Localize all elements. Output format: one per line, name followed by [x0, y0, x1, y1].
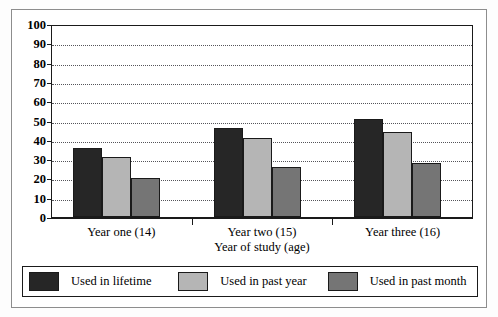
x-separator-tick-2 — [332, 218, 333, 225]
gridline-60 — [52, 103, 472, 104]
bar-used-in-lifetime-year-two-15 — [214, 128, 243, 217]
y-tick-label-70: 70 — [10, 77, 46, 90]
y-tick-label-0: 0 — [10, 212, 46, 225]
bar-used-in-past-year-year-two-15 — [243, 138, 272, 217]
y-tick-label-60: 60 — [10, 96, 46, 109]
bar-used-in-past-month-year-one-14 — [131, 178, 160, 217]
bar-used-in-past-month-year-three-16 — [412, 163, 441, 217]
legend-entry-used-in-lifetime[interactable]: Used in lifetime — [23, 272, 178, 291]
x-group-label-1: Year one (14) — [51, 225, 192, 240]
legend-swatch-used-in-lifetime — [29, 272, 59, 291]
y-tick-label-100: 100 — [10, 19, 46, 32]
x-separator-tick-1 — [192, 218, 193, 225]
y-tick-label-90: 90 — [10, 38, 46, 51]
legend-entry-used-in-past-month[interactable]: Used in past month — [328, 272, 477, 291]
bar-used-in-lifetime-year-one-14 — [73, 148, 102, 217]
y-axis-tick-labels: 0102030405060708090100 — [8, 25, 46, 218]
legend-label-used-in-lifetime: Used in lifetime — [71, 274, 152, 289]
bar-used-in-past-month-year-two-15 — [272, 167, 301, 217]
x-group-label-2: Year two (15) — [192, 225, 333, 240]
gridline-50 — [52, 123, 472, 124]
chart-legend: Used in lifetimeUsed in past yearUsed in… — [22, 266, 478, 297]
bar-used-in-past-year-year-one-14 — [102, 157, 131, 217]
legend-entry-used-in-past-year[interactable]: Used in past year — [178, 272, 327, 291]
legend-swatch-used-in-past-month — [328, 272, 358, 291]
x-group-label-3: Year three (16) — [332, 225, 473, 240]
gridline-90 — [52, 45, 472, 46]
plot-area — [51, 25, 473, 218]
x-axis-line — [51, 218, 473, 219]
y-tick-label-80: 80 — [10, 58, 46, 71]
y-tick-label-40: 40 — [10, 135, 46, 148]
y-tick-label-30: 30 — [10, 154, 46, 167]
gridline-70 — [52, 84, 472, 85]
y-tick-label-50: 50 — [10, 116, 46, 129]
x-axis-title: Year of study (age) — [51, 240, 473, 255]
bar-used-in-past-year-year-three-16 — [383, 132, 412, 217]
bar-chart-figure: 0102030405060708090100 Year one (14)Year… — [0, 0, 498, 317]
gridline-80 — [52, 65, 472, 66]
bar-used-in-lifetime-year-three-16 — [354, 119, 383, 217]
legend-swatch-used-in-past-year — [178, 272, 208, 291]
y-tick-label-10: 10 — [10, 193, 46, 206]
legend-label-used-in-past-month: Used in past month — [370, 274, 467, 289]
y-tick-label-20: 20 — [10, 173, 46, 186]
legend-label-used-in-past-year: Used in past year — [220, 274, 306, 289]
